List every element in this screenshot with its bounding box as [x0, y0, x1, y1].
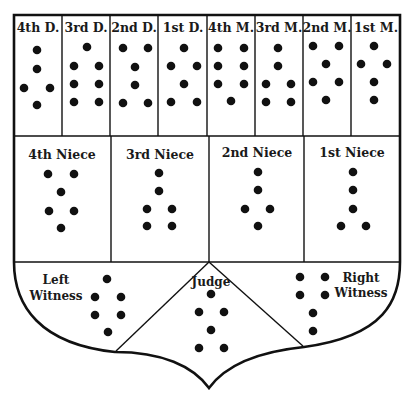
label-right-witness-line1: Right [342, 271, 380, 285]
point-dot [296, 291, 305, 300]
point-dot [370, 96, 379, 105]
point-dot [287, 98, 296, 107]
point-dot [195, 344, 204, 353]
point-dot [95, 62, 104, 71]
figure-mothers-and-daughters-0 [20, 46, 55, 110]
point-dot [240, 62, 249, 71]
figure-nieces-2 [241, 168, 275, 231]
point-dot [309, 309, 318, 318]
point-dot [309, 78, 318, 87]
point-dot [70, 62, 79, 71]
point-dot [70, 80, 79, 89]
point-dot [119, 44, 128, 53]
point-dot [45, 207, 54, 216]
point-dot [95, 98, 104, 107]
point-dot [370, 42, 379, 51]
point-dot [254, 186, 263, 195]
point-dot [274, 62, 283, 71]
point-dot [155, 187, 164, 196]
point-dot [168, 222, 177, 231]
figure-mothers-and-daughters-4 [214, 44, 249, 106]
label-4th-daughter: 4th D. [17, 20, 60, 35]
point-dot [214, 80, 223, 89]
point-dot [335, 42, 344, 51]
figure-mothers-and-daughters-3 [167, 44, 202, 107]
point-dot [220, 308, 229, 317]
point-dot [287, 80, 296, 89]
point-dot [33, 46, 42, 55]
label-2nd-mother: 2nd M. [302, 20, 351, 35]
label-2nd-niece: 2nd Niece [222, 145, 293, 160]
point-dot [227, 97, 236, 106]
point-dot [70, 98, 79, 107]
point-dot [349, 186, 358, 195]
point-dot [337, 222, 346, 231]
point-dot [33, 65, 42, 74]
geomantic-figure-dots [20, 42, 392, 353]
label-4th-niece: 4th Niece [28, 147, 96, 162]
point-dot [131, 81, 140, 90]
point-dot [309, 327, 318, 336]
figure-mothers-and-daughters-1 [70, 43, 104, 107]
point-dot [214, 62, 223, 71]
point-dot [20, 84, 29, 93]
figure-court-2 [296, 273, 330, 336]
figure-court-0 [91, 275, 126, 337]
point-dot [143, 205, 152, 214]
figure-mothers-and-daughters-7 [357, 42, 392, 105]
point-dot [241, 205, 250, 214]
point-dot [91, 293, 100, 302]
point-dot [180, 80, 189, 89]
point-dot [240, 44, 249, 53]
point-dot [119, 99, 128, 108]
point-dot [254, 168, 263, 177]
point-dot [322, 60, 331, 69]
point-dot [207, 326, 216, 335]
point-dot [335, 78, 344, 87]
row3-labels: Left Witness Judge Right Witness [28, 271, 387, 303]
point-dot [57, 188, 66, 197]
point-dot [117, 293, 126, 302]
point-dot [296, 273, 305, 282]
point-dot [262, 80, 271, 89]
label-4th-mother: 4th M. [208, 20, 254, 35]
figure-mothers-and-daughters-5 [262, 44, 296, 107]
label-1st-daughter: 1st D. [163, 20, 204, 35]
label-judge: Judge [191, 275, 231, 289]
point-dot [193, 98, 202, 107]
point-dot [240, 80, 249, 89]
label-3rd-mother: 3rd M. [256, 20, 303, 35]
point-dot [266, 205, 275, 214]
point-dot [262, 98, 271, 107]
figure-mothers-and-daughters-2 [119, 44, 153, 108]
label-2nd-daughter: 2nd D. [111, 20, 157, 35]
label-3rd-niece: 3rd Niece [126, 147, 194, 162]
row2-labels: 4th Niece 3rd Niece 2nd Niece 1st Niece [28, 145, 385, 162]
point-dot [91, 311, 100, 320]
row1-labels: 4th D. 3rd D. 2nd D. 1st D. 4th M. 3rd M… [17, 20, 398, 35]
point-dot [95, 80, 104, 89]
point-dot [167, 62, 176, 71]
geomancy-shield: 4th D. 3rd D. 2nd D. 1st D. 4th M. 3rd M… [0, 0, 411, 395]
point-dot [117, 311, 126, 320]
point-dot [144, 44, 153, 53]
point-dot [103, 275, 112, 284]
point-dot [214, 44, 223, 53]
point-dot [349, 168, 358, 177]
point-dot [143, 222, 152, 231]
point-dot [254, 222, 263, 231]
point-dot [44, 170, 53, 179]
point-dot [220, 344, 229, 353]
label-1st-niece: 1st Niece [319, 145, 385, 160]
point-dot [70, 170, 79, 179]
label-left-witness-line1: Left [43, 273, 70, 287]
point-dot [57, 224, 66, 233]
point-dot [195, 308, 204, 317]
point-dot [362, 222, 371, 231]
point-dot [144, 99, 153, 108]
point-dot [357, 60, 366, 69]
point-dot [70, 207, 79, 216]
label-3rd-daughter: 3rd D. [64, 20, 107, 35]
point-dot [83, 43, 92, 52]
point-dot [131, 63, 140, 72]
